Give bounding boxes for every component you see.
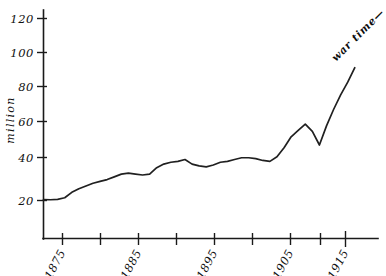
y-tick-label-100: 100: [10, 46, 34, 60]
chart-background: [0, 0, 386, 276]
y-axis-title: million: [4, 96, 17, 143]
y-tick-label-80: 80: [18, 80, 34, 94]
line-chart-svg: 20 40 60 80 100 120 million 1875 1885 18…: [0, 0, 386, 276]
y-tick-label-120: 120: [10, 12, 34, 26]
y-tick-label-40: 40: [17, 151, 34, 165]
y-tick-label-60: 60: [18, 115, 34, 129]
chart-figure: 20 40 60 80 100 120 million 1875 1885 18…: [0, 0, 386, 276]
y-tick-label-20: 20: [17, 194, 34, 208]
